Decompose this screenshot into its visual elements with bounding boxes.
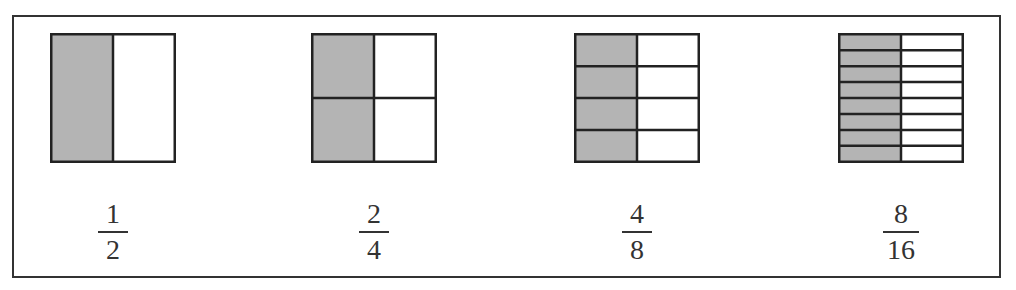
- denominator: 4: [344, 233, 404, 264]
- numerator: 2: [344, 200, 404, 231]
- numerator: 1: [83, 200, 143, 231]
- numerator: 8: [871, 200, 931, 231]
- denominator: 8: [607, 233, 667, 264]
- area-model-grid-icon: [311, 33, 437, 163]
- denominator: 2: [83, 233, 143, 264]
- fraction-label-2: 2 4: [344, 200, 404, 264]
- denominator: 16: [871, 233, 931, 264]
- area-model-eighths: [574, 33, 700, 163]
- area-model-grid-icon: [838, 33, 964, 163]
- fraction-label-3: 4 8: [607, 200, 667, 264]
- fraction-label-4: 8 16: [871, 200, 931, 264]
- area-model-grid-icon: [574, 33, 700, 163]
- fraction-label-1: 1 2: [83, 200, 143, 264]
- figure-caption-cropped: [0, 0, 400, 6]
- area-model-fourths: [311, 33, 437, 163]
- area-model-halves: [50, 33, 176, 163]
- numerator: 4: [607, 200, 667, 231]
- area-model-sixteenths: [838, 33, 964, 163]
- area-model-grid-icon: [50, 33, 176, 163]
